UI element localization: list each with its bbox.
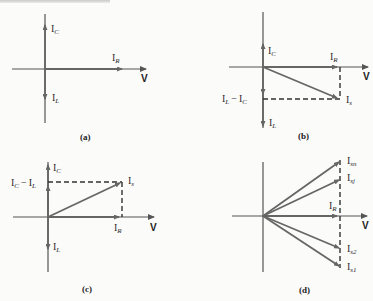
panel-c: IC IR IL Is IC−IL V (c) [11, 162, 157, 294]
v-axis-label: V [141, 73, 148, 84]
isj-phasor [263, 180, 339, 216]
ic-minus-il-label: IC−IL [11, 177, 36, 190]
caption-d: (d) [299, 285, 310, 295]
v-axis-label: V [363, 71, 370, 82]
is-label: Is [346, 94, 352, 107]
caption-c: (c) [82, 284, 92, 294]
isn-label: Isn [347, 155, 357, 168]
panel-a: IC IR IL V (a) [12, 14, 148, 142]
is2-phasor [263, 216, 339, 248]
isn-phasor [263, 162, 339, 216]
ic-label: IC [51, 23, 59, 36]
ir-label: IR [114, 222, 122, 235]
is1-phasor [263, 216, 339, 266]
is-label: Is [128, 175, 134, 188]
ir-label: IR [112, 52, 120, 65]
caption-a: (a) [80, 132, 91, 142]
is-phasor [263, 67, 337, 98]
phasor-diagrams-canvas: IC IR IL V (a) IC IR IL Is IL−IC V (b) [0, 0, 373, 301]
caption-b: (b) [298, 131, 309, 141]
ic-label: IC [268, 45, 276, 58]
is2-label: Is2 [347, 243, 357, 256]
ic-label: IC [53, 162, 61, 175]
isj-label: Isj [347, 172, 355, 185]
il-minus-ic-label: IL−IC [222, 93, 247, 106]
ir-label: IR [330, 51, 338, 64]
v-axis-label: V [150, 222, 157, 233]
il-label: IL [52, 92, 59, 105]
panel-d: Isn Isj IR Is2 Is1 V (d) [232, 155, 369, 295]
panel-b: IC IR IL Is IL−IC V (b) [222, 12, 370, 141]
ir-label: IR [329, 200, 337, 213]
v-axis-label: V [362, 220, 369, 231]
phasor-diagram-figure: IC IR IL V (a) IC IR IL Is IL−IC V (b) [0, 0, 373, 301]
il-label: IL [269, 117, 276, 130]
is-phasor [48, 183, 120, 217]
is1-label: Is1 [347, 261, 357, 274]
il-label: IL [53, 241, 60, 254]
